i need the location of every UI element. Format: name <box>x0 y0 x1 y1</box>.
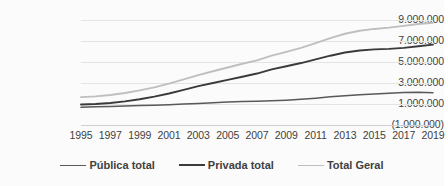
legend-label: Total Geral <box>327 159 384 171</box>
x-tick-label: 2015 <box>359 129 389 142</box>
legend-label: Pública total <box>89 159 154 171</box>
legend-item[interactable]: Pública total <box>60 159 154 171</box>
x-axis: 1995199719992001200320052007200920112013… <box>72 129 444 143</box>
x-tick-label: 2005 <box>213 129 243 142</box>
x-tick-label: 1997 <box>95 129 125 142</box>
legend-label: Privada total <box>208 159 274 171</box>
series-line <box>81 45 433 105</box>
series-line <box>81 23 433 97</box>
x-tick-label: 2011 <box>301 129 331 142</box>
legend-item[interactable]: Total Geral <box>298 159 384 171</box>
axis-baseline <box>81 125 433 126</box>
series-lines <box>81 20 433 125</box>
x-tick-label: 2017 <box>389 129 419 142</box>
x-tick-label: 2001 <box>154 129 184 142</box>
x-tick-label: 2007 <box>242 129 272 142</box>
legend-swatch-icon <box>298 165 324 166</box>
plot-area <box>81 20 433 125</box>
x-tick-label: 2009 <box>271 129 301 142</box>
x-tick-label: 1999 <box>125 129 155 142</box>
chart-legend: Pública totalPrivada totalTotal Geral <box>0 155 444 175</box>
x-tick-label: 2003 <box>183 129 213 142</box>
legend-swatch-icon <box>179 164 205 166</box>
x-tick-label: 1995 <box>66 129 96 142</box>
legend-item[interactable]: Privada total <box>179 159 274 171</box>
x-tick-label: 2019 <box>418 129 448 142</box>
legend-swatch-icon <box>60 165 86 166</box>
x-tick-label: 2013 <box>330 129 360 142</box>
